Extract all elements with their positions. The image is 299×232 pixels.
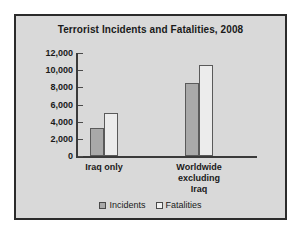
- y-axis-tick-label: 6,000: [25, 100, 73, 110]
- y-axis-tick: [78, 87, 83, 88]
- legend-swatch-icon-fatalities: [156, 202, 163, 209]
- y-axis-tick: [78, 139, 83, 140]
- y-axis-tick-label: 10,000: [25, 65, 73, 75]
- y-axis-tick: [78, 122, 83, 123]
- y-axis-tick: [78, 156, 83, 157]
- legend-label-incidents: Incidents: [109, 200, 145, 210]
- legend-item-incidents: Incidents: [99, 200, 145, 210]
- y-axis-tick-label: 8,000: [25, 82, 73, 92]
- x-axis-category-label-worldwide-excluding-iraq: WorldwideexcludingIraq: [159, 162, 239, 195]
- y-axis-tick: [78, 70, 83, 71]
- legend-label-fatalities: Fatalities: [166, 200, 202, 210]
- chart-legend: Incidents Fatalities: [16, 200, 285, 210]
- y-axis-tick: [78, 105, 83, 106]
- x-axis-line: [76, 156, 257, 158]
- bar-fatalities-worldwide-excluding-iraq: [199, 65, 213, 156]
- plot-area: 12,000 10,000 8,000 6,000 4,000 2,000 0 …: [16, 16, 285, 218]
- y-axis-tick-label: 0: [25, 151, 73, 161]
- bar-incidents-iraq-only: [90, 128, 104, 156]
- y-axis-tick-label: 4,000: [25, 117, 73, 127]
- bar-incidents-worldwide-excluding-iraq: [185, 83, 199, 156]
- bar-fatalities-iraq-only: [104, 113, 118, 156]
- y-axis-tick-label: 2,000: [25, 134, 73, 144]
- y-axis-tick-label: 12,000: [25, 48, 73, 58]
- legend-item-fatalities: Fatalities: [156, 200, 202, 210]
- chart-figure: Terrorist Incidents and Fatalities, 2008…: [14, 14, 287, 220]
- x-axis-category-label-iraq-only: Iraq only: [64, 162, 144, 173]
- legend-swatch-icon-incidents: [99, 202, 106, 209]
- y-axis-tick: [78, 53, 83, 54]
